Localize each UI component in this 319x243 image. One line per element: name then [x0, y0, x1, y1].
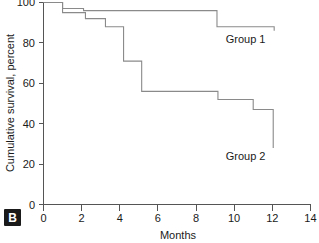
x-tick-label: 2 — [79, 212, 85, 224]
x-tick-label: 14 — [304, 212, 316, 224]
y-tick-label: 20 — [23, 158, 35, 170]
x-tick-label: 6 — [155, 212, 161, 224]
survival-chart-figure: 100 80 60 40 20 0 0 2 4 6 8 10 12 — [0, 0, 319, 243]
x-tick-label: 8 — [193, 212, 199, 224]
x-axis-title: Months — [160, 229, 197, 241]
series-label-group-1: Group 1 — [226, 33, 266, 45]
x-tick-label: 4 — [117, 212, 123, 224]
y-tick-label: 80 — [23, 37, 35, 49]
panel-letter-text: B — [8, 211, 17, 225]
x-tick-label: 10 — [228, 212, 240, 224]
y-tick-label: 100 — [17, 0, 35, 8]
series-label-group-2: Group 2 — [226, 150, 266, 162]
y-axis-title: Cumulative survival, percent — [4, 34, 16, 172]
x-tick-label: 12 — [266, 212, 278, 224]
chart-canvas: 100 80 60 40 20 0 0 2 4 6 8 10 12 — [0, 0, 319, 243]
y-tick-label: 40 — [23, 118, 35, 130]
x-tick-label: 0 — [40, 212, 46, 224]
chart-background — [0, 0, 319, 243]
y-tick-label: 60 — [23, 77, 35, 89]
y-tick-label: 0 — [29, 199, 35, 211]
panel-letter-badge: B — [4, 209, 21, 226]
